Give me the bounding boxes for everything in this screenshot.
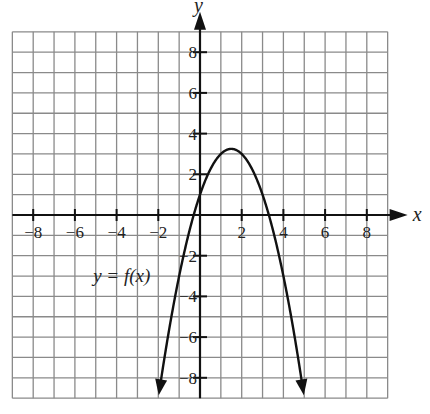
parabola-curve (160, 149, 302, 384)
x-tick-label: 4 (279, 223, 288, 242)
x-tick-label: 8 (363, 223, 372, 242)
x-tick-label: 6 (321, 223, 330, 242)
y-tick-label: 8 (189, 43, 198, 62)
curve-arrowhead-icon (295, 379, 307, 396)
x-tick-label: −6 (66, 223, 84, 242)
x-axis-label: x (412, 203, 422, 225)
x-tick-label: 2 (237, 223, 246, 242)
y-axis-label: y (192, 0, 203, 17)
x-tick-label: −4 (108, 223, 127, 242)
y-tick-label: 2 (189, 165, 198, 184)
y-tick-label: −8 (179, 369, 197, 388)
x-axis-arrow-icon (390, 209, 408, 221)
y-tick-label: 6 (189, 84, 198, 103)
y-tick-label: −6 (179, 328, 197, 347)
curve-arrowhead-icon (155, 379, 167, 396)
y-tick-label: 4 (189, 125, 198, 144)
coordinate-plane: −8−6−4−22468−8−6−4−22468 x y y = f(x) (0, 0, 430, 414)
y-tick-label: −4 (179, 287, 198, 306)
x-tick-label: −2 (149, 223, 167, 242)
x-tick-label: −8 (24, 223, 42, 242)
axes (12, 12, 407, 398)
curve-label: y = f(x) (91, 265, 150, 287)
